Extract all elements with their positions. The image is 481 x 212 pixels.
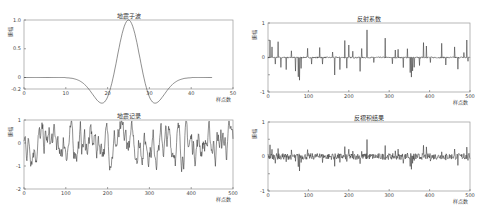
x-axis-label: 样点数: [216, 196, 231, 203]
x-tick-label: 300: [145, 190, 155, 196]
y-tick-label: 0.5: [13, 45, 21, 51]
figure: 地震子波振幅样点数01020304050-0.200.51.0反射系数振幅样点数…: [0, 0, 481, 212]
x-tick-label: 400: [425, 93, 435, 99]
x-tick-label: 100: [61, 190, 71, 196]
x-tick-label: 50: [230, 90, 236, 96]
x-tick-label: 500: [465, 93, 475, 99]
y-tick-label: 0: [18, 74, 21, 80]
y-axis-label: 振幅: [251, 129, 258, 139]
x-tick-label: 200: [103, 190, 113, 196]
y-tick-label: 0: [262, 153, 265, 159]
y-tick-label: -2: [16, 186, 21, 192]
x-tick-label: 0: [266, 192, 269, 198]
x-axis-label: 样点数: [453, 198, 468, 205]
x-tick-label: 40: [188, 90, 194, 96]
chart-title: 反射系数: [357, 15, 381, 23]
series-line: [24, 20, 212, 103]
y-tick-label: 0: [262, 54, 265, 60]
x-tick-label: 200: [344, 93, 354, 99]
y-tick-label: 1: [18, 117, 21, 123]
y-tick-label: 0: [18, 140, 21, 146]
y-tick-label: -1: [260, 89, 265, 95]
y-tick-label: -0.2: [11, 86, 21, 92]
x-tick-label: 300: [384, 192, 394, 198]
x-tick-label: 500: [465, 192, 475, 198]
x-tick-label: 10: [63, 90, 69, 96]
y-axis-label: 振幅: [251, 30, 258, 40]
x-tick-label: 0: [22, 190, 25, 196]
x-tick-label: 400: [425, 192, 435, 198]
y-tick-label: -1: [260, 188, 265, 194]
x-axis-label: 样点数: [453, 99, 468, 106]
y-tick-label: -1: [16, 163, 21, 169]
chart-title: 地震记录: [117, 112, 141, 120]
y-tick-label: 1: [262, 119, 265, 125]
x-tick-label: 200: [344, 192, 354, 198]
x-tick-label: 100: [304, 93, 314, 99]
y-tick-label: 1: [262, 20, 265, 26]
x-tick-label: 300: [384, 93, 394, 99]
x-tick-label: 0: [266, 93, 269, 99]
chart-title: 地震子波: [117, 12, 141, 20]
series-line: [268, 140, 470, 172]
x-tick-label: 0: [22, 90, 25, 96]
x-tick-label: 100: [304, 192, 314, 198]
y-axis-label: 振幅: [7, 27, 14, 37]
chart-title: 反褶积结果: [354, 114, 384, 122]
series-line: [24, 121, 233, 172]
y-axis-label: 振幅: [7, 127, 14, 137]
subplot-reflectivity: 反射系数振幅样点数0100200300400500-101: [251, 15, 475, 106]
x-tick-label: 400: [186, 190, 196, 196]
subplot-record: 地震记录振幅样点数0100200300400500-2-101: [7, 112, 238, 203]
series-line: [268, 30, 470, 80]
x-axis-label: 样点数: [216, 96, 231, 103]
axes-box: [268, 23, 470, 92]
axes-box: [24, 20, 233, 89]
subplot-decon: 反褶积结果振幅样点数0100200300400500-101: [251, 114, 475, 205]
x-tick-label: 500: [228, 190, 238, 196]
subplot-wavelet: 地震子波振幅样点数01020304050-0.200.51.0: [7, 12, 236, 103]
y-tick-label: 1.0: [13, 17, 21, 23]
